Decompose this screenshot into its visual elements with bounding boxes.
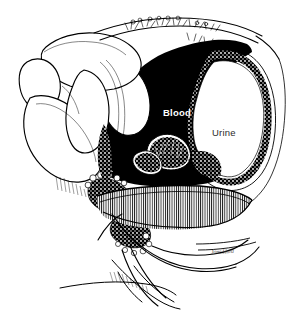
medical-illustration-figure: Blood Urine Jane Hurd: [0, 0, 291, 316]
artist-signature: Jane Hurd: [211, 248, 234, 255]
label-blood: Blood: [163, 108, 191, 118]
anatomy-line-art-svg: [0, 0, 291, 316]
bottom-sweep-lines: [60, 260, 180, 309]
label-urine: Urine: [212, 128, 236, 138]
